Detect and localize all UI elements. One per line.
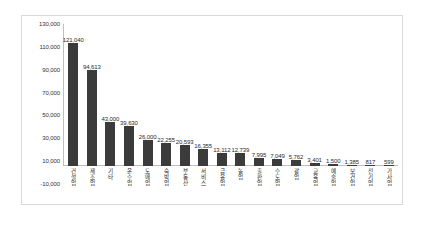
bar-slot[interactable]: 43,000 (101, 24, 120, 166)
category-label: 전기업 (367, 168, 373, 186)
bar[interactable]: 1,500 (328, 164, 338, 166)
category-label: 수도업 (275, 168, 281, 186)
bar[interactable]: 43,000 (105, 122, 115, 166)
bar-slot[interactable]: 39,630 (120, 24, 139, 166)
bar-slot[interactable]: 121,040 (64, 24, 83, 166)
y-axis-tick-labels: 130,000110,00090,00070,00050,00030,00010… (22, 24, 63, 184)
bar-slot[interactable]: 20,593 (175, 24, 194, 166)
category-label: 출판업 (256, 168, 262, 186)
category-label: 건설업 (70, 168, 76, 186)
y-axis-tick-label: -10,000 (40, 181, 60, 187)
category-labels-container: 건설업제조업기타운수업도매업숙박업부동산서비스금융업농업출판업수도업광업교육업예… (64, 168, 398, 202)
bar-value-label: 22,255 (157, 137, 175, 143)
bar-slot[interactable]: 13,112 (213, 24, 232, 166)
category-label: 예술업 (330, 168, 336, 186)
category-slot: 기타 (101, 168, 120, 202)
bar-value-label: 599 (384, 159, 394, 165)
bar-slot[interactable]: 1,385 (342, 24, 361, 166)
bars-container: 121,04094,61343,00039,63026,00022,25520,… (64, 24, 398, 166)
bar-value-label: 817 (365, 159, 375, 165)
category-slot: 숙박업 (157, 168, 176, 202)
bar[interactable]: 599 (384, 165, 394, 166)
bar-value-label: 3,401 (307, 157, 322, 163)
category-label: 금융업 (219, 168, 225, 186)
category-slot: 건설업 (64, 168, 83, 202)
bar[interactable]: 7,049 (272, 159, 282, 166)
category-label: 농업 (237, 168, 243, 180)
bar[interactable]: 26,000 (143, 140, 153, 166)
bar-value-label: 16,355 (194, 143, 212, 149)
bar-slot[interactable]: 22,255 (157, 24, 176, 166)
bar-value-label: 13,112 (213, 147, 230, 153)
bar-slot[interactable]: 94,613 (83, 24, 102, 166)
bar-value-label: 121,040 (63, 37, 84, 43)
bar-value-label: 39,630 (120, 120, 138, 126)
category-slot: 광업 (287, 168, 306, 202)
category-label: 부동산 (182, 168, 188, 186)
bar[interactable]: 94,613 (87, 70, 97, 166)
category-slot: 전기업 (361, 168, 380, 202)
category-slot: 교육업 (305, 168, 324, 202)
category-label: 제조업 (89, 168, 95, 186)
bar-slot[interactable]: 7,049 (268, 24, 287, 166)
bar-value-label: 26,000 (139, 134, 157, 140)
bar-slot[interactable]: 26,000 (138, 24, 157, 166)
bar[interactable]: 7,995 (254, 158, 264, 166)
bar-slot[interactable]: 1,500 (324, 24, 343, 166)
bar-chart-figure: 130,000110,00090,00070,00050,00030,00010… (21, 15, 403, 205)
y-axis-tick-label: 30,000 (42, 135, 60, 141)
y-axis-tick-label: 110,000 (39, 44, 60, 50)
category-slot: 농업 (231, 168, 250, 202)
category-label: 가사업 (386, 168, 392, 186)
bar-value-label: 1,500 (326, 158, 341, 164)
category-slot: 운수업 (120, 168, 139, 202)
category-slot: 제조업 (83, 168, 102, 202)
y-axis-tick-label: 70,000 (42, 90, 60, 96)
bar[interactable]: 12,739 (235, 153, 245, 166)
bar-value-label: 12,739 (231, 147, 249, 153)
y-axis-tick-label: 130,000 (39, 21, 60, 27)
bar-value-label: 7,995 (252, 152, 267, 158)
bar[interactable]: 5,762 (291, 160, 301, 166)
bar[interactable]: 20,593 (180, 145, 190, 166)
category-label: 교육업 (312, 168, 318, 186)
category-slot: 부동산 (175, 168, 194, 202)
bar[interactable]: 22,255 (161, 143, 171, 166)
bar-slot[interactable]: 599 (380, 24, 399, 166)
bar[interactable]: 16,355 (198, 149, 208, 166)
bar-slot[interactable]: 7,995 (250, 24, 269, 166)
category-slot: 출판업 (250, 168, 269, 202)
category-slot: 가사업 (380, 168, 399, 202)
bar-slot[interactable]: 3,401 (305, 24, 324, 166)
category-label: 서비스 (200, 168, 206, 186)
category-slot: 도매업 (138, 168, 157, 202)
bar[interactable]: 13,112 (217, 153, 227, 166)
bar[interactable]: 817 (365, 165, 375, 166)
bar-slot[interactable]: 16,355 (194, 24, 213, 166)
bar[interactable]: 39,630 (124, 126, 134, 166)
category-slot: 수도업 (268, 168, 287, 202)
bar[interactable]: 3,401 (310, 163, 320, 166)
bar-value-label: 94,613 (83, 64, 101, 70)
category-label: 도매업 (145, 168, 151, 186)
bar[interactable]: 1,385 (347, 165, 357, 166)
bar-value-label: 20,593 (176, 139, 194, 145)
bar-value-label: 5,762 (289, 154, 304, 160)
bar[interactable]: 121,040 (68, 43, 78, 166)
category-label: 보건업 (349, 168, 355, 186)
category-slot: 예술업 (324, 168, 343, 202)
category-label: 기타 (107, 168, 113, 180)
bar-slot[interactable]: 817 (361, 24, 380, 166)
category-slot: 보건업 (342, 168, 361, 202)
category-slot: 서비스 (194, 168, 213, 202)
bar-slot[interactable]: 5,762 (287, 24, 306, 166)
bar-value-label: 1,385 (344, 159, 359, 165)
y-axis-tick-label: 10,000 (42, 158, 60, 164)
bar-slot[interactable]: 12,739 (231, 24, 250, 166)
bar-value-label: 43,000 (102, 116, 120, 122)
bar-value-label: 7,049 (270, 153, 285, 159)
category-label: 숙박업 (163, 168, 169, 186)
category-slot: 금융업 (213, 168, 232, 202)
category-label: 운수업 (126, 168, 132, 186)
category-label: 광업 (293, 168, 299, 180)
